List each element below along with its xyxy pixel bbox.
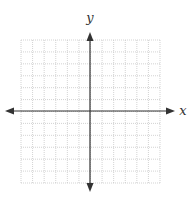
axes (5, 32, 175, 192)
coordinate-plane: x y (0, 0, 193, 202)
arrow-down-icon (87, 183, 94, 192)
arrow-left-icon (5, 108, 14, 115)
x-axis-label: x (179, 103, 187, 118)
y-axis-label: y (85, 10, 94, 25)
arrow-up-icon (87, 32, 94, 41)
arrow-right-icon (166, 108, 175, 115)
